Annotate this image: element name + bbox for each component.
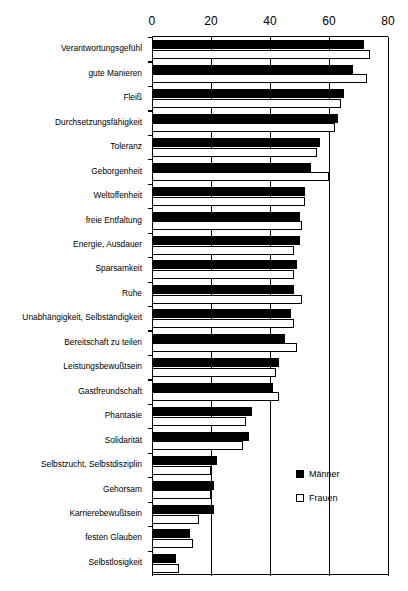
- bar-frauen: [152, 319, 294, 328]
- category-label: Energie, Ausdauer: [0, 239, 142, 249]
- bar-group: [152, 183, 388, 207]
- bar-maenner: [152, 383, 273, 392]
- category-label: Karrierebewußtsein: [0, 508, 142, 518]
- y-axis-tick: [148, 257, 152, 258]
- bar-maenner: [152, 89, 344, 98]
- x-tick-label-80: 80: [373, 14, 403, 28]
- bar-frauen: [152, 197, 305, 206]
- bar-frauen: [152, 172, 329, 181]
- x-tick-label-20: 20: [196, 14, 226, 28]
- y-axis-tick: [148, 110, 152, 111]
- bar-maenner: [152, 114, 338, 123]
- category-label: Durchsetzungsfähigkeit: [0, 117, 142, 127]
- category-label: freie Entfaltung: [0, 215, 142, 225]
- category-label: Weltoffenheit: [0, 190, 142, 200]
- bar-maenner: [152, 212, 300, 221]
- y-axis-tick: [148, 184, 152, 185]
- category-label: Fleiß: [0, 92, 142, 102]
- bar-group: [152, 403, 388, 427]
- y-axis-tick: [148, 428, 152, 429]
- category-label: Selbstzucht, Selbstdisziplin: [0, 459, 142, 469]
- bar-frauen: [152, 368, 276, 377]
- y-axis-tick: [148, 159, 152, 160]
- bar-group: [152, 232, 388, 256]
- category-label: gute Manieren: [0, 68, 142, 78]
- bar-rows: [152, 36, 388, 574]
- bar-frauen: [152, 74, 367, 83]
- bar-frauen: [152, 295, 302, 304]
- chart-legend: Männer Frauen: [296, 468, 340, 516]
- category-label: Bereitschaft zu teilen: [0, 337, 142, 347]
- y-axis-tick: [148, 526, 152, 527]
- bar-frauen: [152, 490, 211, 499]
- category-label: Solidarität: [0, 435, 142, 445]
- bar-group: [152, 85, 388, 109]
- bar-frauen: [152, 270, 294, 279]
- category-label-column: Verantwortungsgefühlgute ManierenFleißDu…: [0, 36, 148, 574]
- category-label: Ruhe: [0, 288, 142, 298]
- bar-frauen: [152, 515, 199, 524]
- bar-maenner: [152, 481, 214, 490]
- y-axis-tick: [148, 135, 152, 136]
- bar-frauen: [152, 50, 370, 59]
- bar-maenner: [152, 187, 305, 196]
- open-square-icon: [296, 494, 304, 502]
- bar-group: [152, 36, 388, 60]
- bar-group: [152, 378, 388, 402]
- y-axis-tick: [148, 208, 152, 209]
- bar-group: [152, 427, 388, 451]
- legend-item-maenner: Männer: [296, 468, 340, 480]
- category-label: Leistungsbewußtsein: [0, 361, 142, 371]
- x-axis-bottom-line: [152, 574, 389, 575]
- bar-frauen: [152, 392, 279, 401]
- bar-maenner: [152, 432, 249, 441]
- bar-frauen: [152, 564, 179, 573]
- x-axis-tick-labels: 020406080: [0, 14, 408, 32]
- bar-group: [152, 158, 388, 182]
- legend-label-maenner: Männer: [309, 468, 340, 480]
- legend-label-frauen: Frauen: [309, 492, 338, 504]
- bar-maenner: [152, 334, 285, 343]
- bar-frauen: [152, 123, 335, 132]
- y-axis-tick: [148, 330, 152, 331]
- category-label: Toleranz: [0, 141, 142, 151]
- bar-frauen: [152, 539, 193, 548]
- y-axis-tick: [148, 502, 152, 503]
- y-axis-tick: [148, 37, 152, 38]
- bar-group: [152, 207, 388, 231]
- y-axis-tick: [148, 453, 152, 454]
- category-label: festen Glauben: [0, 532, 142, 542]
- bar-maenner: [152, 309, 291, 318]
- category-label: Selbstlosigkeit: [0, 557, 142, 567]
- bar-group: [152, 256, 388, 280]
- bar-group: [152, 476, 388, 500]
- y-axis-tick: [148, 551, 152, 552]
- bar-group: [152, 134, 388, 158]
- bar-frauen: [152, 417, 246, 426]
- y-axis-tick: [148, 233, 152, 234]
- bar-group: [152, 109, 388, 133]
- y-axis-tick: [148, 477, 152, 478]
- bar-group: [152, 354, 388, 378]
- category-label: Gastfreundschaft: [0, 386, 142, 396]
- category-label: Verantwortungsgefühl: [0, 43, 142, 53]
- bar-maenner: [152, 65, 353, 74]
- y-axis-tick: [148, 379, 152, 380]
- bar-maenner: [152, 554, 176, 563]
- x-tick-label-40: 40: [255, 14, 285, 28]
- bar-chart: 020406080 Verantwortungsgefühlgute Manie…: [0, 0, 408, 591]
- bar-maenner: [152, 163, 311, 172]
- bar-frauen: [152, 343, 297, 352]
- bar-group: [152, 281, 388, 305]
- bar-maenner: [152, 407, 252, 416]
- y-axis-tick: [148, 61, 152, 62]
- bar-group: [152, 550, 388, 574]
- x-tick-label-0: 0: [137, 14, 167, 28]
- bar-frauen: [152, 246, 294, 255]
- bar-group: [152, 525, 388, 549]
- category-label: Gehorsam: [0, 484, 142, 494]
- bar-maenner: [152, 505, 214, 514]
- bar-frauen: [152, 441, 243, 450]
- bar-group: [152, 60, 388, 84]
- category-label: Geborgenheit: [0, 166, 142, 176]
